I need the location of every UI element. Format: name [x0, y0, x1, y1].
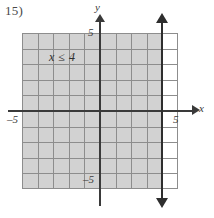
x-axis	[8, 110, 194, 112]
boundary-line-arrowhead-bottom-icon	[156, 198, 168, 208]
worksheet-problem-graphic: 15) y x 5 –5 –5 5 x ≤ 4	[0, 0, 214, 218]
x-axis-label: x	[199, 102, 204, 114]
boundary-line-arrowhead-top-icon	[156, 13, 168, 23]
problem-number-label: 15)	[5, 3, 23, 19]
y-axis-tick-label-positive: 5	[88, 26, 94, 38]
inequality-annotation: x ≤ 4	[49, 50, 75, 65]
boundary-line-x-equals-4	[161, 22, 163, 200]
x-axis-tick-label-negative: –5	[7, 113, 18, 125]
y-axis	[99, 22, 101, 206]
x-axis-tick-label-positive: 5	[173, 113, 179, 125]
y-axis-label: y	[95, 1, 100, 13]
y-axis-arrowhead-icon	[95, 14, 105, 22]
y-axis-tick-label-negative: –5	[83, 173, 94, 185]
